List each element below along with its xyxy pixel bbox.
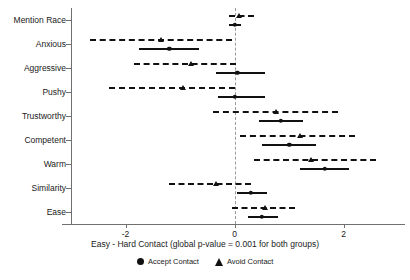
point-marker-avoid-contact-ease	[262, 205, 268, 210]
y-axis-tick	[66, 164, 71, 165]
point-marker-avoid-contact-aggressive	[188, 61, 194, 66]
confidence-interval-avoid-contact-similarity	[169, 183, 251, 185]
point-marker-avoid-contact-mention-race	[236, 13, 242, 18]
point-marker-accept-contact-trustworthy	[279, 119, 283, 123]
y-axis-tick	[66, 140, 71, 141]
y-axis-tick	[66, 188, 71, 189]
y-axis-label-trustworthy: Trustworthy	[22, 112, 66, 121]
point-marker-avoid-contact-pushy	[180, 85, 186, 90]
legend-label-accept-contact: Accept Contact	[148, 257, 199, 266]
y-axis-label-anxious: Anxious	[36, 40, 66, 49]
y-axis-tick	[66, 20, 71, 21]
confidence-interval-accept-contact-pushy	[218, 96, 264, 98]
y-axis-label-pushy: Pushy	[42, 88, 66, 97]
y-axis-label-aggressive: Aggressive	[24, 64, 66, 73]
y-axis-label-ease: Ease	[47, 208, 66, 217]
y-axis-tick	[66, 116, 71, 117]
y-axis-label-competent: Competent	[24, 136, 66, 145]
x-axis-tick	[235, 224, 236, 228]
x-axis-line	[62, 224, 405, 225]
x-axis-tick	[344, 224, 345, 228]
y-axis-label-mention-race: Mention Race	[14, 16, 66, 25]
point-marker-accept-contact-pushy	[232, 95, 236, 99]
filled-circle-icon	[137, 258, 145, 266]
point-marker-avoid-contact-competent	[297, 133, 303, 138]
y-axis-label-similarity: Similarity	[32, 184, 66, 193]
point-marker-accept-contact-ease	[260, 215, 264, 219]
confidence-interval-avoid-contact-pushy	[109, 87, 234, 89]
y-axis-label-warm: Warm	[44, 160, 66, 169]
y-axis-tick	[66, 92, 71, 93]
y-axis-tick	[66, 44, 71, 45]
plot-area	[71, 8, 401, 224]
point-marker-accept-contact-competent	[287, 143, 291, 147]
x-axis-title: Easy - Hard Contact (global p-value = 0.…	[0, 239, 410, 249]
point-marker-avoid-contact-warm	[308, 157, 314, 162]
zero-reference-line	[235, 8, 236, 224]
forest-plot-figure: Mention RaceAnxiousAggressivePushyTrustw…	[0, 0, 410, 280]
legend-label-avoid-contact: Avoid Contact	[227, 257, 274, 266]
y-axis-labels: Mention RaceAnxiousAggressivePushyTrustw…	[0, 0, 66, 280]
chart-legend: Accept Contact Avoid Contact	[0, 257, 410, 266]
confidence-interval-avoid-contact-aggressive	[134, 63, 236, 65]
point-marker-avoid-contact-trustworthy	[273, 109, 279, 114]
confidence-interval-accept-contact-aggressive	[216, 72, 265, 74]
point-marker-accept-contact-warm	[322, 167, 326, 171]
point-marker-accept-contact-anxious	[167, 47, 171, 51]
point-marker-avoid-contact-anxious	[158, 37, 164, 42]
x-axis-tick-label: 2	[341, 229, 346, 239]
point-marker-accept-contact-aggressive	[235, 71, 239, 75]
y-axis-tick	[66, 68, 71, 69]
confidence-interval-avoid-contact-warm	[254, 159, 377, 161]
point-marker-accept-contact-mention-race	[232, 23, 236, 27]
point-marker-avoid-contact-similarity	[213, 181, 219, 186]
filled-triangle-icon	[215, 258, 223, 266]
x-axis-tick-label: 0	[232, 229, 237, 239]
legend-item-accept-contact: Accept Contact	[137, 257, 199, 266]
point-marker-accept-contact-similarity	[249, 191, 253, 195]
x-axis-tick	[126, 224, 127, 228]
legend-item-avoid-contact: Avoid Contact	[215, 257, 274, 266]
x-axis-tick-label: -2	[122, 229, 130, 239]
y-axis-tick	[66, 212, 71, 213]
